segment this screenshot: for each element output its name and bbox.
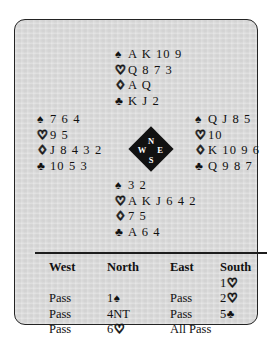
hand-north-diamonds-row: ♢ A Q bbox=[115, 78, 182, 94]
spade-icon: ♠ bbox=[114, 291, 120, 307]
heart-icon: ♡ bbox=[227, 276, 238, 292]
spade-icon: ♠ bbox=[37, 112, 50, 128]
auction-bid-west: Pass bbox=[49, 307, 71, 323]
auction-row: 1♡ bbox=[35, 276, 267, 292]
auction-bid-east: Pass bbox=[170, 291, 192, 307]
hand-south-diamonds-row: ♢ 7 5 bbox=[115, 209, 197, 225]
auction-bid-south-level: 5 bbox=[220, 307, 226, 321]
auction-table: West North East South 1♡ Pass 1♠ Pass 2♡… bbox=[35, 260, 267, 338]
hand-north-hearts-row: ♡ Q 8 7 3 bbox=[115, 63, 182, 79]
auction-header-south: South bbox=[220, 260, 251, 276]
heart-icon: ♡ bbox=[115, 63, 128, 79]
club-icon: ♣ bbox=[115, 94, 128, 110]
auction-row: Pass 1♠ Pass 2♡ bbox=[35, 291, 267, 307]
diamond-icon: ♢ bbox=[115, 209, 128, 225]
hand-north-clubs-row: ♣ K J 2 bbox=[115, 94, 182, 110]
heart-icon: ♡ bbox=[195, 128, 208, 144]
hand-east-hearts-row: ♡ 10 bbox=[195, 128, 260, 144]
hand-south: ♠ 3 2 ♡ A K J 6 4 2 ♢ 7 5 ♣ A 6 4 bbox=[115, 178, 197, 240]
auction-bid-north-level: 1 bbox=[107, 291, 113, 305]
auction-header-east: East bbox=[170, 260, 194, 276]
compass-north-label: N bbox=[145, 137, 157, 146]
hand-west-clubs: 10 5 3 bbox=[50, 159, 88, 175]
auction-header-north: North bbox=[107, 260, 139, 276]
auction-bid-west: Pass bbox=[49, 291, 71, 307]
hand-south-clubs-row: ♣ A 6 4 bbox=[115, 225, 197, 241]
auction-bid-south: 1♡ bbox=[220, 276, 238, 292]
diamond-icon: ♢ bbox=[115, 78, 128, 94]
club-icon: ♣ bbox=[227, 307, 235, 323]
hand-south-clubs: A 6 4 bbox=[128, 225, 161, 241]
hand-south-spades: 3 2 bbox=[128, 178, 147, 194]
compass-south-label: S bbox=[145, 156, 157, 165]
hand-west: ♠ 7 6 4 ♡ 9 5 ♢ J 8 4 3 2 ♣ 10 5 3 bbox=[37, 112, 102, 174]
hand-east-hearts: 10 bbox=[208, 128, 223, 144]
hand-north-spades-row: ♠ A K 10 9 bbox=[115, 47, 182, 63]
diamond-icon: ♢ bbox=[195, 143, 208, 159]
diamond-icon: ♢ bbox=[37, 143, 50, 159]
hand-west-hearts-row: ♡ 9 5 bbox=[37, 128, 102, 144]
hand-north: ♠ A K 10 9 ♡ Q 8 7 3 ♢ A Q ♣ K J 2 bbox=[115, 47, 182, 109]
hand-north-spades: A K 10 9 bbox=[128, 47, 182, 63]
compass-west-label: W bbox=[136, 146, 148, 155]
heart-icon: ♡ bbox=[227, 291, 238, 307]
hand-west-spades-row: ♠ 7 6 4 bbox=[37, 112, 102, 128]
heart-icon: ♡ bbox=[114, 322, 125, 338]
auction-bid-north-level: 6 bbox=[107, 322, 113, 336]
hand-west-spades: 7 6 4 bbox=[50, 112, 81, 128]
heart-icon: ♡ bbox=[37, 128, 50, 144]
heart-icon: ♡ bbox=[115, 194, 128, 210]
hand-west-diamonds: J 8 4 3 2 bbox=[50, 143, 102, 159]
club-icon: ♣ bbox=[37, 159, 50, 175]
compass-east-label: E bbox=[154, 146, 166, 155]
hand-east-spades: Q J 8 5 bbox=[208, 112, 251, 128]
hand-east-diamonds-row: ♢ K 10 9 6 bbox=[195, 143, 260, 159]
hand-south-hearts: A K J 6 4 2 bbox=[128, 194, 197, 210]
hand-south-spades-row: ♠ 3 2 bbox=[115, 178, 197, 194]
hand-north-hearts: Q 8 7 3 bbox=[128, 63, 173, 79]
auction-bid-north: 6♡ bbox=[107, 322, 125, 338]
hand-south-hearts-row: ♡ A K J 6 4 2 bbox=[115, 194, 197, 210]
club-icon: ♣ bbox=[115, 225, 128, 241]
hand-west-diamonds-row: ♢ J 8 4 3 2 bbox=[37, 143, 102, 159]
auction-row: Pass 4NT Pass 5♣ bbox=[35, 307, 267, 323]
spade-icon: ♠ bbox=[115, 178, 128, 194]
compass-rose: N W E S bbox=[128, 126, 174, 172]
auction-bid-south-level: 2 bbox=[220, 291, 226, 305]
auction-bid-east: All Pass bbox=[170, 322, 211, 338]
hand-east-clubs-row: ♣ Q 9 8 7 bbox=[195, 159, 260, 175]
hand-east-clubs: Q 9 8 7 bbox=[208, 159, 253, 175]
hand-east-spades-row: ♠ Q J 8 5 bbox=[195, 112, 260, 128]
auction-bid-west: Pass bbox=[49, 322, 71, 338]
auction-bid-south-level: 1 bbox=[220, 276, 226, 290]
auction-header-row: West North East South bbox=[35, 260, 267, 276]
auction-divider bbox=[35, 252, 267, 254]
auction-bid-east: Pass bbox=[170, 307, 192, 323]
hand-east: ♠ Q J 8 5 ♡ 10 ♢ K 10 9 6 ♣ Q 9 8 7 bbox=[195, 112, 260, 174]
hand-north-clubs: K J 2 bbox=[128, 94, 160, 110]
auction-bid-north-level: 4NT bbox=[107, 307, 130, 321]
hand-east-diamonds: K 10 9 6 bbox=[208, 143, 260, 159]
auction-bid-south: 5♣ bbox=[220, 307, 234, 323]
club-icon: ♣ bbox=[195, 159, 208, 175]
spade-icon: ♠ bbox=[115, 47, 128, 63]
hand-south-diamonds: 7 5 bbox=[128, 209, 147, 225]
auction-row: Pass 6♡ All Pass bbox=[35, 322, 267, 338]
bridge-deal-card: ♠ A K 10 9 ♡ Q 8 7 3 ♢ A Q ♣ K J 2 ♠ 7 6… bbox=[14, 19, 258, 325]
auction-bid-north: 4NT bbox=[107, 307, 130, 323]
hand-west-hearts: 9 5 bbox=[50, 128, 69, 144]
spade-icon: ♠ bbox=[195, 112, 208, 128]
auction-bid-north: 1♠ bbox=[107, 291, 120, 307]
auction-bid-south: 2♡ bbox=[220, 291, 238, 307]
hand-north-diamonds: A Q bbox=[128, 78, 152, 94]
auction-header-west: West bbox=[49, 260, 75, 276]
hand-west-clubs-row: ♣ 10 5 3 bbox=[37, 159, 102, 175]
